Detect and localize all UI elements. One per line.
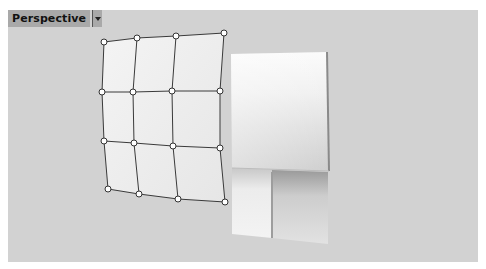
viewport-title[interactable]: Perspective [8,10,90,27]
control-point[interactable] [170,143,176,149]
control-point[interactable] [175,196,181,202]
scene-canvas[interactable] [8,10,478,262]
control-point[interactable] [134,35,140,41]
control-point-surface[interactable] [99,30,228,205]
control-point[interactable] [217,88,223,94]
control-point[interactable] [173,33,179,39]
control-point[interactable] [99,89,105,95]
viewport-menu-button[interactable] [92,10,102,27]
control-point[interactable] [221,30,227,36]
control-point[interactable] [169,88,175,94]
control-point[interactable] [101,138,107,144]
control-point[interactable] [105,186,111,192]
chevron-down-icon [95,17,101,21]
control-point[interactable] [222,199,228,205]
control-point[interactable] [136,191,142,197]
control-point[interactable] [101,39,107,45]
control-point[interactable] [217,145,223,151]
perspective-viewport[interactable]: Perspective [8,10,478,262]
viewport-label: Perspective [8,10,102,27]
control-point[interactable] [131,140,137,146]
rendered-surface-panel[interactable] [231,52,329,171]
panel-reflection [232,168,328,244]
control-point[interactable] [130,89,136,95]
